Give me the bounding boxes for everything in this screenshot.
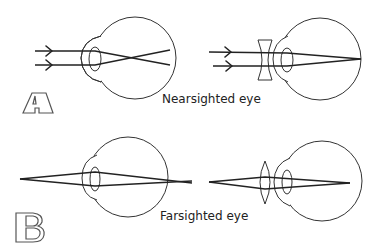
farsighted-uncorrected-eye (20, 137, 192, 217)
eyeball (279, 18, 361, 100)
cornea (273, 36, 288, 82)
cornea (82, 155, 97, 200)
caption-farsighted: Farsighted eye (160, 209, 248, 223)
convex-lens (260, 161, 270, 204)
nearsighted-corrected-eye (209, 18, 361, 100)
cornea (81, 36, 101, 82)
panel-letter-a (23, 93, 53, 113)
concave-lens (258, 40, 272, 80)
panel-letter-b (16, 213, 44, 242)
nearsighted-uncorrected-eye (35, 17, 176, 99)
caption-nearsighted: Nearsighted eye (162, 92, 261, 106)
